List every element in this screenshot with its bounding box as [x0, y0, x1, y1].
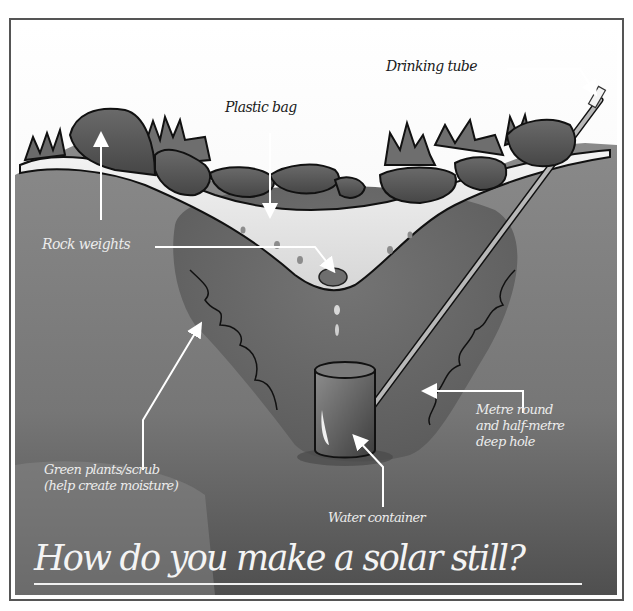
- diagram-title: How do you make a solar still?: [34, 538, 524, 578]
- label-green-plants-line1: Green plants/scrub: [44, 462, 159, 477]
- solar-still-diagram: Drinking tube Plastic bag Rock weights M…: [0, 0, 633, 611]
- water-container-rim: [315, 362, 375, 378]
- water-drip: [335, 324, 339, 336]
- label-metre-round-line2: and half-metre: [476, 418, 564, 433]
- label-water-container: Water container: [328, 510, 425, 525]
- label-green-plants-line2: (help create moisture): [44, 478, 178, 493]
- diagram-illustration: [15, 25, 617, 595]
- label-rock-weights: Rock weights: [42, 237, 130, 252]
- water-container: [315, 370, 375, 458]
- label-plastic-bag: Plastic bag: [225, 100, 297, 115]
- center-rock-weight: [319, 268, 347, 286]
- title-underline: [34, 583, 582, 585]
- label-metre-round-line3: deep hole: [476, 434, 535, 449]
- water-drip: [334, 305, 340, 315]
- label-drinking-tube: Drinking tube: [386, 59, 477, 74]
- label-metre-round-line1: Metre round: [476, 402, 553, 417]
